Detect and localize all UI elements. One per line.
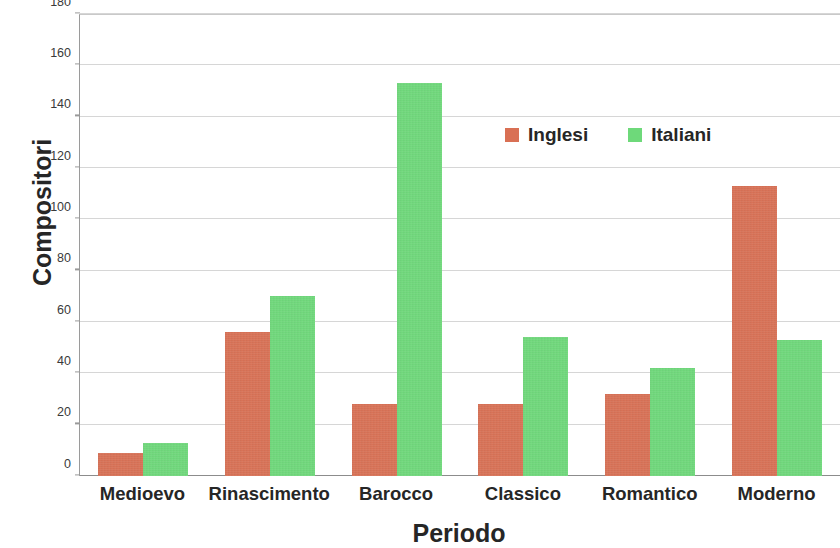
y-tick-label: 100 bbox=[50, 201, 71, 214]
gridline bbox=[80, 13, 840, 14]
bar-italiani-romantico[interactable] bbox=[650, 368, 695, 476]
bar-group bbox=[207, 15, 334, 476]
bar-groups bbox=[80, 15, 840, 476]
y-tick-label: 0 bbox=[64, 457, 71, 470]
legend-label: Italiani bbox=[651, 124, 711, 146]
bar-italiani-moderno[interactable] bbox=[777, 340, 822, 476]
bar-group bbox=[713, 15, 840, 476]
legend-entry-italiani[interactable]: Italiani bbox=[628, 124, 711, 146]
y-tick-label: 180 bbox=[50, 0, 71, 8]
bar-chart: Compositori 020406080100120140160180 Med… bbox=[0, 0, 840, 548]
legend-swatch-icon bbox=[628, 128, 642, 142]
chart-legend: InglesiItaliani bbox=[505, 124, 711, 146]
bar-group bbox=[587, 15, 714, 476]
bar-inglesi-rinascimento[interactable] bbox=[225, 332, 270, 476]
bar-group bbox=[460, 15, 587, 476]
y-tick-label: 160 bbox=[50, 47, 71, 60]
x-tick-label-barocco: Barocco bbox=[333, 483, 460, 511]
bar-italiani-classico[interactable] bbox=[523, 337, 568, 476]
bar-inglesi-medioevo[interactable] bbox=[98, 453, 143, 476]
y-tick-mark bbox=[75, 12, 80, 13]
x-tick-label-moderno: Moderno bbox=[713, 483, 840, 511]
y-tick-label: 140 bbox=[50, 98, 71, 111]
bar-inglesi-moderno[interactable] bbox=[732, 186, 777, 476]
x-tick-label-rinascimento: Rinascimento bbox=[206, 483, 333, 511]
bar-italiani-medioevo[interactable] bbox=[143, 443, 188, 476]
x-tick-label-classico: Classico bbox=[459, 483, 586, 511]
bar-italiani-rinascimento[interactable] bbox=[270, 296, 315, 476]
y-tick-label: 60 bbox=[57, 303, 71, 316]
plot-area: 020406080100120140160180 bbox=[79, 14, 840, 476]
y-tick-label: 120 bbox=[50, 149, 71, 162]
bar-inglesi-classico[interactable] bbox=[478, 404, 523, 476]
bar-italiani-barocco[interactable] bbox=[397, 83, 442, 476]
legend-swatch-icon bbox=[505, 128, 519, 142]
bar-inglesi-barocco[interactable] bbox=[352, 404, 397, 476]
bar-group bbox=[333, 15, 460, 476]
bar-inglesi-romantico[interactable] bbox=[605, 394, 650, 476]
legend-entry-inglesi[interactable]: Inglesi bbox=[505, 124, 588, 146]
legend-label: Inglesi bbox=[528, 124, 588, 146]
y-tick-label: 20 bbox=[57, 406, 71, 419]
x-tick-labels: MedioevoRinascimentoBaroccoClassicoRoman… bbox=[79, 483, 840, 511]
x-axis-title: Periodo bbox=[78, 519, 840, 548]
bar-group bbox=[80, 15, 207, 476]
x-tick-label-romantico: Romantico bbox=[586, 483, 713, 511]
y-tick-label: 40 bbox=[57, 355, 71, 368]
x-tick-label-medioevo: Medioevo bbox=[79, 483, 206, 511]
y-tick-label: 80 bbox=[57, 252, 71, 265]
